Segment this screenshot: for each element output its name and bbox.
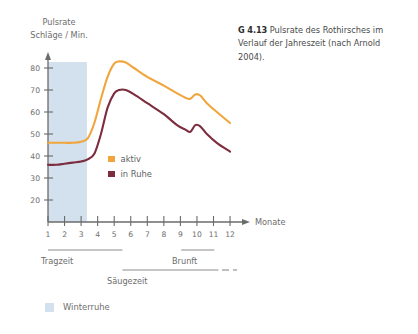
legend-item-winterruhe: Winterruhe	[45, 302, 110, 312]
x-axis-arrow	[242, 219, 250, 225]
x-tick-label: 10	[192, 230, 202, 239]
legend-label-in-ruhe: in Ruhe	[121, 169, 153, 179]
legend-swatch-in-ruhe	[108, 171, 115, 178]
phase-label-tragzeit: Tragzeit	[41, 256, 73, 266]
x-tick-label: 5	[112, 230, 117, 239]
chart-plot-area: 80 70 60 50 40 30 20 123456789101112 Mon…	[0, 0, 418, 334]
x-tick-label: 6	[128, 230, 133, 239]
legend-label-winterruhe: Winterruhe	[63, 302, 110, 312]
legend-item-aktiv: aktiv	[108, 154, 152, 164]
y-tick-label: 70	[30, 86, 40, 95]
y-tick-label: 30	[30, 174, 40, 183]
x-tick-label: 11	[209, 230, 219, 239]
y-tick-label: 80	[30, 64, 40, 73]
y-tick-label: 60	[30, 108, 40, 117]
legend-item-in-ruhe: in Ruhe	[108, 169, 152, 179]
chart-legend: aktiv in Ruhe	[108, 154, 152, 184]
x-tick-label: 1	[46, 230, 51, 239]
phase-label-saugezeit: Säugezeit	[107, 276, 147, 286]
x-axis-label: Monate	[255, 217, 286, 227]
x-tick-label: 9	[178, 230, 183, 239]
x-tick-label: 7	[145, 230, 150, 239]
figure-container: G 4.13 Pulsrate des Rothirsches im Verla…	[0, 0, 418, 334]
x-tick-label: 3	[79, 230, 84, 239]
legend-label-aktiv: aktiv	[121, 154, 142, 164]
phase-bars	[48, 250, 237, 270]
x-tick-label: 2	[62, 230, 67, 239]
legend-swatch-winterruhe	[45, 303, 54, 312]
y-tick-label: 40	[30, 152, 40, 161]
x-axis-tick-labels: 123456789101112	[46, 230, 235, 239]
y-axis-arrow	[45, 52, 51, 60]
phase-label-brunft: Brunft	[172, 256, 197, 266]
y-tick-label: 20	[30, 196, 40, 205]
y-axis-tick-labels: 80 70 60 50 40 30 20	[30, 64, 40, 205]
legend-swatch-aktiv	[108, 156, 115, 163]
x-tick-label: 12	[225, 230, 235, 239]
x-tick-label: 4	[95, 230, 100, 239]
y-tick-label: 50	[30, 130, 40, 139]
x-tick-label: 8	[161, 230, 166, 239]
